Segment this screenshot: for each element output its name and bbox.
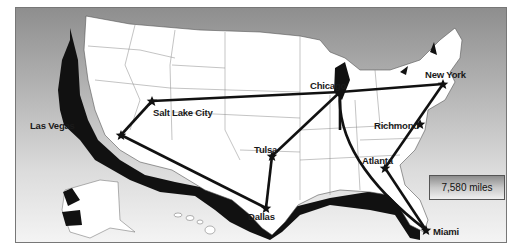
city-label-miami: Miami: [433, 226, 459, 237]
city-label-atlanta: Atlanta: [362, 155, 393, 166]
total-distance-label: 7,580 miles: [441, 182, 492, 193]
city-label-salt-lake-city: Salt Lake City: [153, 107, 213, 118]
city-label-dallas: Dallas: [248, 211, 275, 222]
total-distance-box: 7,580 miles: [429, 175, 505, 200]
hawaii: [174, 213, 215, 234]
alaska: [62, 180, 135, 238]
city-label-new-york: New York: [425, 69, 466, 80]
city-label-richmond: Richmond: [374, 120, 419, 131]
city-label-tulsa: Tulsa: [254, 144, 277, 155]
city-label-las-vegas: Las Vegas: [30, 120, 75, 131]
city-label-chicago: Chicago: [310, 80, 346, 91]
